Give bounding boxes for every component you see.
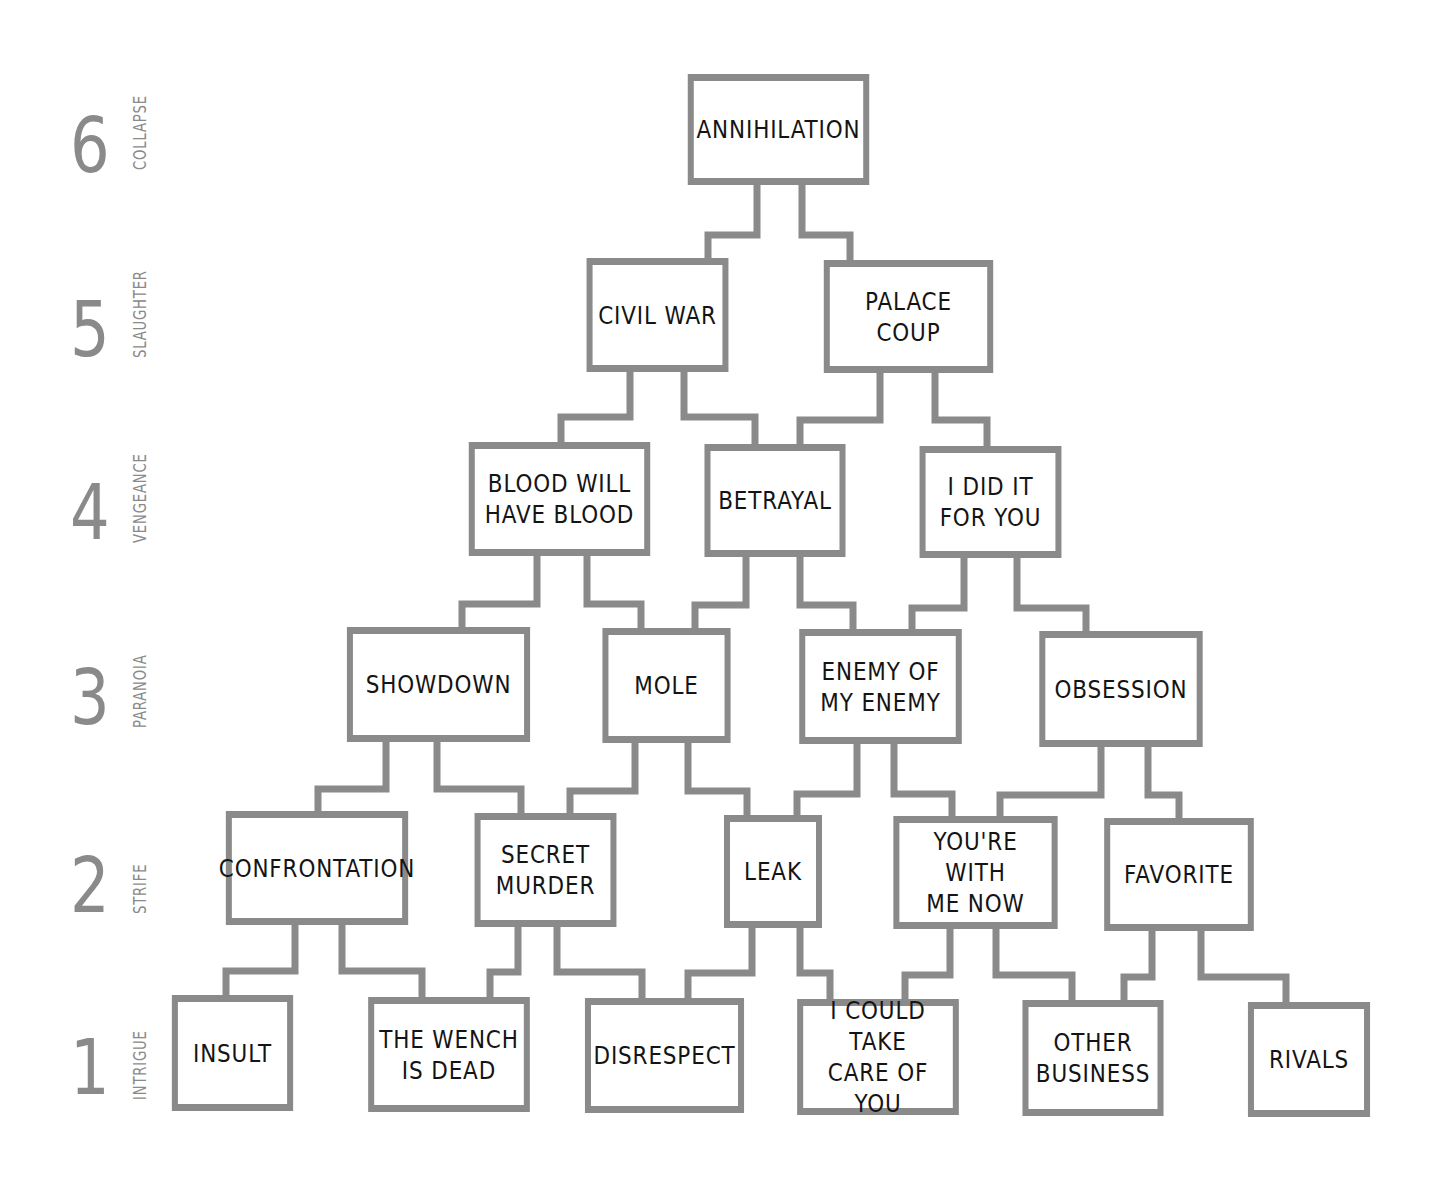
node-label: YOU'RE WITH ME NOW xyxy=(899,826,1051,919)
node-civil-war: CIVIL WAR xyxy=(587,258,729,372)
level-5-name: SLAUGHTER xyxy=(130,270,150,358)
node-label: SECRET MURDER xyxy=(496,839,595,901)
node-label: I DID IT FOR YOU xyxy=(940,471,1042,533)
node-label: SHOWDOWN xyxy=(366,669,512,700)
node-label: MOLE xyxy=(634,670,698,701)
node-betrayal: BETRAYAL xyxy=(704,444,845,557)
node-label: ENEMY OF MY ENEMY xyxy=(820,656,940,718)
node-youre-with-me-now: YOU'RE WITH ME NOW xyxy=(893,816,1057,929)
node-disrespect: DISRESPECT xyxy=(585,998,744,1113)
level-2-number: 2 xyxy=(70,848,110,924)
node-label: PALACE COUP xyxy=(830,286,987,348)
level-6-name: COLLAPSE xyxy=(130,95,150,170)
node-label: INSULT xyxy=(193,1038,272,1069)
level-3-number: 3 xyxy=(70,660,110,736)
node-label: CONFRONTATION xyxy=(219,853,415,884)
node-label: ANNIHILATION xyxy=(696,114,860,145)
node-label: LEAK xyxy=(744,856,802,887)
node-i-did-it-for-you: I DID IT FOR YOU xyxy=(920,446,1062,558)
level-4-name: VENGEANCE xyxy=(130,453,150,543)
node-label: OTHER BUSINESS xyxy=(1036,1027,1150,1089)
node-label: DISRESPECT xyxy=(593,1040,735,1071)
node-rivals: RIVALS xyxy=(1248,1002,1370,1117)
node-label: I COULD TAKE CARE OF YOU xyxy=(803,995,953,1119)
node-the-wench-is-dead: THE WENCH IS DEAD xyxy=(368,997,530,1112)
node-other-business: OTHER BUSINESS xyxy=(1022,1000,1163,1116)
node-insult: INSULT xyxy=(172,995,293,1111)
node-palace-coup: PALACE COUP xyxy=(824,260,993,373)
node-annihilation: ANNIHILATION xyxy=(688,74,869,185)
level-1-number: 1 xyxy=(70,1030,110,1106)
node-label: CIVIL WAR xyxy=(598,300,717,331)
node-label: RIVALS xyxy=(1269,1044,1349,1075)
level-6-number: 6 xyxy=(70,108,110,184)
node-label: BLOOD WILL HAVE BLOOD xyxy=(485,468,635,530)
node-leak: LEAK xyxy=(724,815,822,928)
level-2-name: STRIFE xyxy=(130,864,150,914)
node-favorite: FAVORITE xyxy=(1104,818,1254,931)
level-4-number: 4 xyxy=(70,475,110,551)
level-5-number: 5 xyxy=(70,292,110,368)
node-showdown: SHOWDOWN xyxy=(347,627,530,742)
node-label: FAVORITE xyxy=(1124,859,1234,890)
node-label: OBSESSION xyxy=(1055,674,1188,705)
node-mole: MOLE xyxy=(602,628,730,743)
escalation-pyramid-diagram: 6 COLLAPSE 5 SLAUGHTER 4 VENGEANCE 3 PAR… xyxy=(0,0,1447,1190)
node-label: THE WENCH IS DEAD xyxy=(379,1024,519,1086)
node-i-could-take-care-of-you: I COULD TAKE CARE OF YOU xyxy=(797,999,959,1115)
node-secret-murder: SECRET MURDER xyxy=(475,813,617,927)
node-label: BETRAYAL xyxy=(718,485,832,516)
level-1-name: INTRIGUE xyxy=(130,1030,150,1100)
node-confrontation: CONFRONTATION xyxy=(226,811,408,925)
node-blood-will-have-blood: BLOOD WILL HAVE BLOOD xyxy=(469,442,650,556)
level-3-name: PARANOIA xyxy=(130,654,150,728)
node-enemy-of-my-enemy: ENEMY OF MY ENEMY xyxy=(799,629,962,744)
node-obsession: OBSESSION xyxy=(1039,631,1202,747)
